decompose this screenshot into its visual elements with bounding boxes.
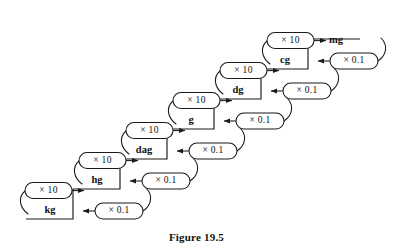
connector-curve-dag-hg (190, 158, 198, 181)
pill-label-mul-hg-dag: × 10 (93, 155, 111, 165)
pill-label-div-dg-g: × 0.1 (249, 115, 270, 125)
divide-group-cg-dg: × 0.1 (271, 68, 339, 99)
unit-label-cg: cg (280, 54, 291, 65)
pill-label-mul-dag-g: × 10 (140, 125, 158, 135)
unit-label-mg: mg (329, 34, 344, 45)
multiply-group-hg-dag: × 10 (74, 153, 138, 185)
unit-label-kg: kg (44, 204, 56, 215)
multiply-group-cg-mg: × 10 (262, 33, 326, 65)
pill-label-mul-kg-hg: × 10 (39, 185, 57, 195)
multiply-group-g-dg: × 10 (168, 93, 232, 125)
pill-label-div-g-dag: × 0.1 (202, 145, 223, 155)
divide-group-dg-g: × 0.1 (224, 98, 292, 129)
figure-container: × 10 × 10 × 10 × 10 × 10 (0, 0, 393, 251)
multiply-group-dg-cg: × 10 (215, 63, 279, 95)
divide-group-hg-kg: × 0.1 (83, 188, 151, 219)
pill-label-div-hg-kg: × 0.1 (108, 205, 129, 215)
unit-label-g: g (188, 114, 194, 125)
multiply-group-dag-g: × 10 (121, 123, 185, 155)
connector-curve-dg-g (284, 98, 292, 121)
connector-curve-g-dag (237, 128, 245, 151)
pill-label-div-cg-dg: × 0.1 (296, 85, 317, 95)
pill-label-mul-g-dg: × 10 (187, 95, 205, 105)
pill-label-mul-dg-cg: × 10 (234, 65, 252, 75)
unit-label-dg: dg (232, 84, 244, 95)
pill-label-div-dag-hg: × 0.1 (155, 175, 176, 185)
connector-curve-mg-cg (378, 38, 386, 61)
staircase-outline (26, 39, 360, 219)
divide-group-g-dag: × 0.1 (177, 128, 245, 159)
unit-label-dag: dag (136, 144, 153, 155)
staircase-diagram: × 10 × 10 × 10 × 10 × 10 (0, 0, 393, 251)
unit-label-hg: hg (91, 174, 103, 185)
figure-caption: Figure 19.5 (0, 231, 393, 243)
divide-group-dag-hg: × 0.1 (130, 158, 198, 189)
pill-label-div-mg-cg: × 0.1 (343, 55, 364, 65)
connector-curve-cg-dg (331, 68, 339, 91)
connector-curve-hg-kg (143, 188, 151, 211)
pill-label-mul-cg-mg: × 10 (281, 35, 299, 45)
